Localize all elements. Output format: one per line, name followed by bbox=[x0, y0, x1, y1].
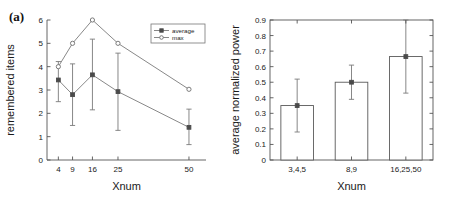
chart-b-ytick-label: 0.8 bbox=[255, 32, 267, 41]
chart-a-ytick-label: 1 bbox=[39, 133, 44, 142]
chart-a-ylabel: remembered items bbox=[4, 44, 16, 136]
chart-b-xtick-label: 3,4,5 bbox=[288, 165, 306, 174]
chart-a-legend-label-1: max bbox=[172, 34, 185, 41]
chart-b-xtick-label: 8,9 bbox=[346, 165, 358, 174]
chart-b-ytick-label: 0.6 bbox=[255, 63, 267, 72]
chart-a-marker-average bbox=[56, 78, 60, 82]
chart-a-marker-max bbox=[90, 18, 94, 22]
chart-a-marker-max bbox=[70, 41, 74, 45]
panel-b: (b) 00.10.20.30.40.50.60.70.80.93,4,58,9… bbox=[226, 0, 452, 200]
chart-b-ytick-label: 0.7 bbox=[255, 47, 267, 56]
chart-a-marker-average bbox=[116, 90, 120, 94]
chart-a-xlabel: Xnum bbox=[112, 180, 141, 192]
chart-a-xtick-label: 25 bbox=[114, 165, 123, 174]
chart-b-marker-mean bbox=[295, 104, 299, 108]
chart-a-xtick-label: 4 bbox=[56, 165, 61, 174]
chart-a-marker-average bbox=[187, 125, 191, 129]
chart-a-ytick-label: 3 bbox=[39, 86, 44, 95]
chart-b-ytick-label: 0.5 bbox=[255, 78, 267, 87]
chart-a-ytick-label: 2 bbox=[39, 109, 44, 118]
chart-b-ytick-label: 0.9 bbox=[255, 16, 267, 25]
chart-a-legend-marker-max bbox=[160, 36, 164, 40]
chart-b-ytick-label: 0.4 bbox=[255, 94, 267, 103]
chart-b-ytick-label: 0.1 bbox=[255, 140, 267, 149]
chart-a-marker-average bbox=[71, 93, 75, 97]
chart-a-marker-max bbox=[187, 87, 191, 91]
chart-a-ytick-label: 6 bbox=[39, 16, 44, 25]
chart-b-xlabel: Xnum bbox=[337, 180, 366, 192]
chart-a-legend-marker-average bbox=[160, 29, 163, 32]
chart-b-ytick-label: 0 bbox=[262, 156, 267, 165]
chart-b-bar-plot: 00.10.20.30.40.50.60.70.80.93,4,58,916,2… bbox=[226, 0, 452, 200]
chart-b-ytick-label: 0.3 bbox=[255, 109, 267, 118]
chart-a-series-average bbox=[58, 75, 189, 128]
chart-b-ylabel: average normalized power bbox=[229, 25, 241, 155]
chart-a-marker-max bbox=[56, 65, 60, 69]
chart-a-ytick-label: 0 bbox=[39, 156, 44, 165]
chart-a-legend-label-0: average bbox=[172, 27, 195, 34]
panel-a: (a) 012345649162550Xnumremembered itemsa… bbox=[0, 0, 226, 200]
chart-a-marker-average bbox=[91, 73, 95, 77]
chart-b-ytick-label: 0.2 bbox=[255, 125, 267, 134]
chart-a-ytick-label: 4 bbox=[39, 63, 44, 72]
chart-a-marker-max bbox=[116, 41, 120, 45]
panel-a-label: (a) bbox=[9, 9, 24, 25]
chart-b-marker-mean bbox=[350, 80, 354, 84]
chart-a-xtick-label: 16 bbox=[88, 165, 97, 174]
chart-a-xtick-label: 50 bbox=[185, 165, 194, 174]
figure-container: (a) 012345649162550Xnumremembered itemsa… bbox=[0, 0, 452, 200]
chart-a-xtick-label: 9 bbox=[70, 165, 75, 174]
chart-b-marker-mean bbox=[404, 55, 408, 59]
chart-a-ytick-label: 5 bbox=[39, 39, 44, 48]
chart-b-xtick-label: 16,25,50 bbox=[390, 165, 422, 174]
chart-a-line-plot: 012345649162550Xnumremembered itemsavera… bbox=[0, 0, 226, 200]
